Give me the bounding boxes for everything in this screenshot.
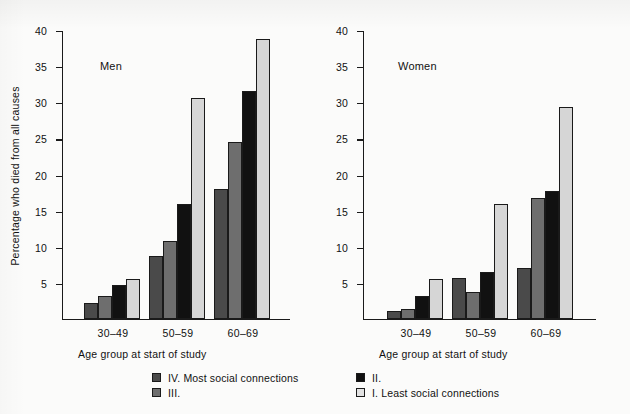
- bar-women-iii-60-69[interactable]: [531, 198, 545, 319]
- bar-women-iii-50-59[interactable]: [466, 292, 480, 319]
- bar-women-ii-30-49[interactable]: [415, 296, 429, 318]
- bar-men-i-50-59[interactable]: [191, 98, 205, 318]
- x-tick-women-0: 30–49: [400, 327, 431, 339]
- legend-label-iv: IV. Most social connections: [168, 372, 298, 384]
- bar-groups-women: 30–49 50–59 60–69: [363, 31, 576, 319]
- bar-women-iv-50-59[interactable]: [452, 278, 466, 318]
- bar-women-iv-60-69[interactable]: [517, 268, 531, 319]
- bar-women-i-60-69[interactable]: [559, 107, 573, 319]
- bar-men-ii-60-69[interactable]: [242, 91, 256, 319]
- bar-women-ii-60-69[interactable]: [545, 191, 559, 319]
- y-tick-5: 5: [41, 278, 47, 290]
- y-tick-40: 40: [35, 25, 47, 37]
- x-tick-men-0: 30–49: [97, 327, 128, 339]
- plot-area-men: 40 35 30 25 20 15 10 5 30–49: [62, 31, 272, 320]
- y-tick-women-10: 10: [336, 242, 348, 254]
- bar-men-iv-30-49[interactable]: [84, 303, 98, 319]
- panel-women: Women 40 35 30 25 20 15 10 5 3: [320, 0, 630, 414]
- y-tick-women-40: 40: [336, 25, 348, 37]
- bar-men-i-60-69[interactable]: [256, 39, 270, 319]
- legend-item-iv[interactable]: IV. Most social connections: [152, 370, 332, 385]
- bar-group-women-1: 50–59: [452, 31, 510, 319]
- y-tick-women-35: 35: [336, 61, 348, 73]
- y-tick-30: 30: [35, 97, 47, 109]
- bar-men-iii-50-59[interactable]: [163, 241, 177, 319]
- bar-men-iii-60-69[interactable]: [228, 142, 242, 319]
- y-axis-label: Percentage who died from all causes: [8, 31, 22, 320]
- bar-men-ii-30-49[interactable]: [112, 285, 126, 318]
- legend-label-iii: III.: [168, 387, 180, 399]
- legend-label-ii: II.: [372, 372, 381, 384]
- bar-group-men-1: 50–59: [149, 31, 207, 319]
- y-tick-women-20: 20: [336, 170, 348, 182]
- legend-swatch-i-icon: [356, 388, 365, 397]
- bar-men-iv-50-59[interactable]: [149, 256, 163, 318]
- bar-group-men-0: 30–49: [84, 31, 142, 319]
- bar-men-iv-60-69[interactable]: [214, 189, 228, 319]
- legend-swatch-ii-icon: [356, 373, 365, 382]
- legend-item-iii[interactable]: III.: [152, 385, 332, 400]
- figure: Percentage who died from all causes Men …: [0, 0, 630, 414]
- bar-men-i-30-49[interactable]: [126, 279, 140, 319]
- legend-item-i[interactable]: I. Least social connections: [356, 385, 572, 400]
- bar-group-women-0: 30–49: [387, 31, 445, 319]
- bar-men-iii-30-49[interactable]: [98, 296, 112, 318]
- x-axis-label-women: Age group at start of study: [379, 348, 508, 360]
- y-tick-women-5: 5: [342, 278, 348, 290]
- y-tick-women-25: 25: [336, 133, 348, 145]
- bar-women-i-30-49[interactable]: [429, 279, 443, 319]
- y-tick-20: 20: [35, 170, 47, 182]
- y-tick-15: 15: [35, 206, 47, 218]
- x-tick-men-2: 60–69: [227, 327, 258, 339]
- y-tick-25: 25: [35, 133, 47, 145]
- bar-women-iii-30-49[interactable]: [401, 309, 415, 319]
- legend-label-i: I. Least social connections: [372, 387, 499, 399]
- x-axis-label-men: Age group at start of study: [78, 348, 207, 360]
- legend-item-ii[interactable]: II.: [356, 370, 572, 385]
- legend-swatch-iv-icon: [152, 373, 161, 382]
- panel-men: Percentage who died from all causes Men …: [0, 0, 320, 414]
- y-tick-10: 10: [35, 242, 47, 254]
- x-tick-women-1: 50–59: [465, 327, 496, 339]
- bar-women-i-50-59[interactable]: [494, 204, 508, 318]
- bar-women-iv-30-49[interactable]: [387, 311, 401, 318]
- y-tick-women-15: 15: [336, 206, 348, 218]
- bar-group-men-2: 60–69: [214, 31, 272, 319]
- bar-men-ii-50-59[interactable]: [177, 204, 191, 319]
- x-tick-men-1: 50–59: [162, 327, 193, 339]
- bar-groups-men: 30–49 50–59 60–69: [62, 31, 272, 319]
- x-axis-line-men: [62, 319, 290, 320]
- plot-area-women: 40 35 30 25 20 15 10 5 30–49: [363, 31, 576, 320]
- legend-swatch-iii-icon: [152, 388, 161, 397]
- x-tick-women-2: 60–69: [530, 327, 561, 339]
- y-tick-women-30: 30: [336, 97, 348, 109]
- bar-group-women-2: 60–69: [517, 31, 575, 319]
- legend: IV. Most social connections II. III. I. …: [152, 370, 572, 400]
- x-axis-line-women: [363, 319, 596, 320]
- bar-women-ii-50-59[interactable]: [480, 272, 494, 318]
- y-tick-35: 35: [35, 61, 47, 73]
